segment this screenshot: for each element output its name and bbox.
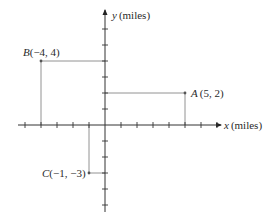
point-b: B(−4, 4) xyxy=(23,46,60,62)
point-a: A(5, 2) xyxy=(184,87,224,100)
point-a-marker xyxy=(184,92,187,95)
axes xyxy=(18,10,221,212)
coordinate-plane: x(miles) y(miles) A(5, 2) B(−4, 4) C(−1,… xyxy=(0,0,274,215)
point-a-label: A(5, 2) xyxy=(190,87,224,100)
projection-lines xyxy=(41,61,185,173)
point-c: C(−1, −3) xyxy=(42,167,90,180)
point-c-label: C(−1, −3) xyxy=(42,167,86,180)
point-b-label: B(−4, 4) xyxy=(23,46,60,59)
x-axis-label: x(miles) xyxy=(223,119,262,132)
point-b-marker xyxy=(40,60,43,63)
y-axis-label: y(miles) xyxy=(111,9,150,22)
point-c-marker xyxy=(88,172,91,175)
